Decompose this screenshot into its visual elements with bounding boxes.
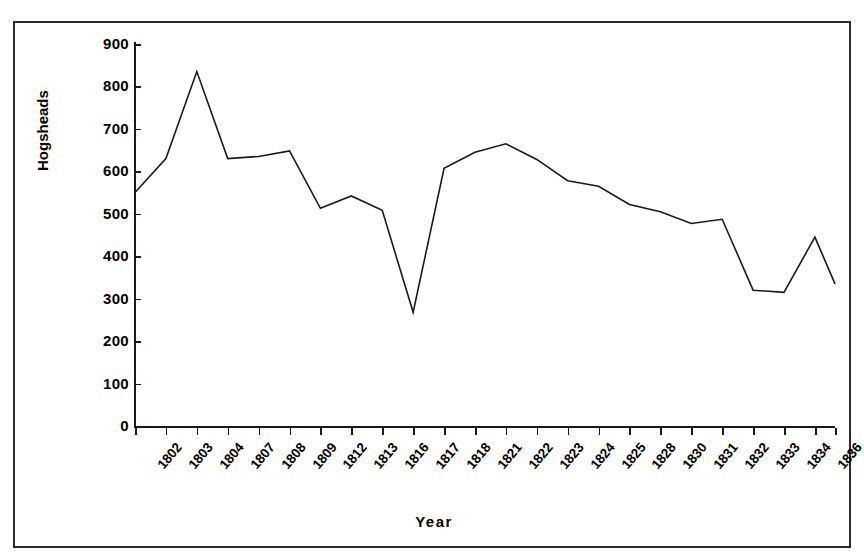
y-axis-title: Hogsheads	[34, 90, 51, 171]
x-tick-label: 1803	[185, 440, 215, 472]
x-tick-label: 1833	[773, 440, 803, 472]
x-tick-label: 1804	[216, 440, 246, 472]
series-polyline	[135, 72, 835, 313]
x-tick-label: 1823	[556, 440, 586, 472]
x-tick-label: 1812	[340, 440, 370, 472]
x-tick-label: 1836	[834, 440, 864, 472]
x-tick-mark	[660, 428, 662, 435]
y-tick-label: 300	[103, 290, 129, 307]
x-tick-mark	[815, 428, 817, 435]
x-tick-label: 1813	[371, 440, 401, 472]
x-tick-label: 1832	[742, 440, 772, 472]
x-tick-label: 1831	[711, 440, 741, 472]
x-tick-mark	[382, 428, 384, 435]
y-tick-label: 0	[120, 417, 129, 434]
y-tick-label: 500	[103, 205, 129, 222]
x-tick-mark	[413, 428, 415, 435]
x-tick-mark	[135, 428, 137, 435]
x-tick-mark	[351, 428, 353, 435]
x-tick-mark	[259, 428, 261, 435]
x-tick-mark	[537, 428, 539, 435]
x-tick-label: 1808	[278, 440, 308, 472]
x-tick-mark	[784, 428, 786, 435]
x-axis-line	[134, 426, 835, 428]
y-tick-label: 200	[103, 332, 129, 349]
x-tick-mark	[835, 428, 837, 435]
x-tick-label: 1816	[402, 440, 432, 472]
x-tick-mark	[599, 428, 601, 435]
x-tick-label: 1834	[803, 440, 833, 472]
y-tick-label: 400	[103, 247, 129, 264]
line-series	[135, 44, 835, 426]
x-tick-mark	[197, 428, 199, 435]
x-axis-title: Year	[15, 513, 853, 530]
x-tick-label: 1818	[463, 440, 493, 472]
x-tick-label: 1817	[433, 440, 463, 472]
x-tick-mark	[228, 428, 230, 435]
x-tick-mark	[691, 428, 693, 435]
chart-figure: Hogsheads 9008007006005004003002001000 1…	[13, 21, 851, 548]
y-tick-label: 800	[103, 77, 129, 94]
x-tick-label: 1828	[649, 440, 679, 472]
x-tick-mark	[629, 428, 631, 435]
x-tick-mark	[166, 428, 168, 435]
y-tick-label: 100	[103, 375, 129, 392]
x-tick-label: 1824	[587, 440, 617, 472]
x-tick-label: 1830	[680, 440, 710, 472]
x-tick-label: 1825	[618, 440, 648, 472]
x-tick-label: 1821	[494, 440, 524, 472]
x-tick-mark	[568, 428, 570, 435]
x-tick-mark	[506, 428, 508, 435]
x-tick-mark	[320, 428, 322, 435]
x-tick-mark	[290, 428, 292, 435]
x-tick-label: 1802	[154, 440, 184, 472]
plot-area	[135, 44, 835, 426]
x-tick-label: 1822	[525, 440, 555, 472]
y-tick-label: 700	[103, 120, 129, 137]
x-tick-mark	[722, 428, 724, 435]
x-tick-mark	[753, 428, 755, 435]
x-tick-label: 1809	[309, 440, 339, 472]
y-tick-label: 900	[103, 35, 129, 52]
y-tick-label: 600	[103, 162, 129, 179]
x-tick-mark	[444, 428, 446, 435]
x-tick-mark	[475, 428, 477, 435]
x-tick-label: 1807	[247, 440, 277, 472]
